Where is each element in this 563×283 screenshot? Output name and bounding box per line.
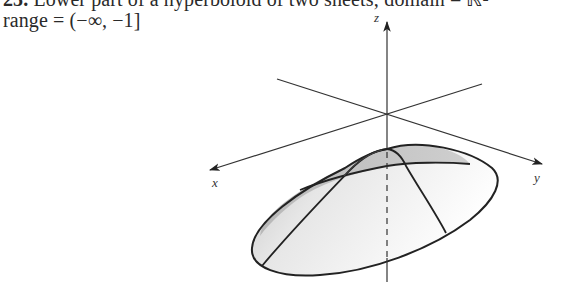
y-axis-label: y — [532, 170, 540, 185]
hyperboloid-surface — [252, 145, 498, 276]
x-axis-label: x — [211, 175, 218, 190]
z-axis-label: z — [373, 10, 379, 25]
hyperboloid-figure: x y z — [0, 0, 563, 283]
axes — [210, 22, 542, 170]
